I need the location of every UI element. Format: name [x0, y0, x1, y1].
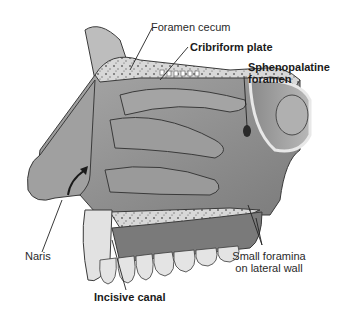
nasal-cavity-diagram: Foramen cecum Cribriform plate Sphenopal… — [0, 0, 344, 314]
label-cribriform-plate: Cribriform plate — [190, 41, 273, 53]
sphenopalatine-foramen-hole — [243, 125, 251, 137]
label-small-foramina-line2: on lateral wall — [229, 262, 309, 274]
label-naris: Naris — [25, 250, 51, 262]
label-small-foramina-line1: Small foramina — [229, 250, 309, 262]
label-foramen-cecum: Foramen cecum — [151, 21, 230, 33]
label-sphenopalatine-line2: foramen — [248, 73, 291, 85]
label-incisive-canal: Incisive canal — [94, 291, 166, 303]
label-sphenopalatine-line1: Sphenopalatine — [248, 61, 330, 73]
external-nose — [28, 80, 96, 200]
